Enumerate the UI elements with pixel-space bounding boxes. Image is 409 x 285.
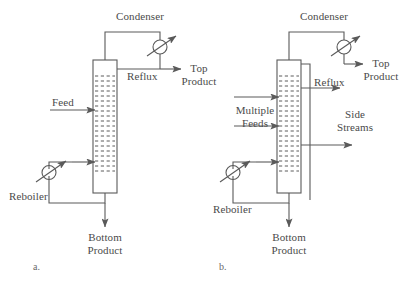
label-bottom-product-b-line2: Product <box>272 244 307 256</box>
label-reboiler-b: Reboiler <box>213 203 252 215</box>
diagram-a-group <box>36 32 181 227</box>
label-reflux-a: Reflux <box>127 70 158 82</box>
caption-b: b. <box>219 261 227 272</box>
label-reboiler-a: Reboiler <box>9 190 48 202</box>
distillation-diagram-figure <box>0 0 409 285</box>
label-condenser-b: Condenser <box>300 10 348 22</box>
label-condenser-a: Condenser <box>116 10 164 22</box>
column-trays-b <box>279 76 299 171</box>
label-reflux-b: Reflux <box>314 76 345 88</box>
label-top-product-b-line1: Top <box>372 57 389 69</box>
label-bottom-product-a-line1: Bottom <box>88 231 122 243</box>
condenser-duty-arrow-a <box>147 36 176 56</box>
label-bottom-product-b-line1: Bottom <box>272 231 306 243</box>
reboiler-liquid-line-b <box>233 176 289 203</box>
reflux-header-b <box>301 64 310 200</box>
label-side-streams-line2: Streams <box>337 121 373 133</box>
condenser-duty-arrow-b <box>331 36 360 56</box>
label-feed-a: Feed <box>52 96 74 108</box>
label-top-product-b-line2: Product <box>364 70 399 82</box>
label-top-product-a-line1: Top <box>190 62 207 74</box>
label-top-product-a-line2: Product <box>182 75 217 87</box>
label-bottom-product-a-line2: Product <box>88 244 123 256</box>
label-side-streams-line1: Side <box>345 108 365 120</box>
caption-a: a. <box>33 261 40 272</box>
reboiler-liquid-line-a <box>49 176 105 203</box>
label-multiple-feeds-line1: Multiple <box>236 104 275 116</box>
column-trays-a <box>95 76 115 171</box>
overhead-vapor-line-a <box>105 32 160 60</box>
label-multiple-feeds-line2: Feeds <box>242 117 268 129</box>
overhead-vapor-line-b <box>289 32 344 60</box>
